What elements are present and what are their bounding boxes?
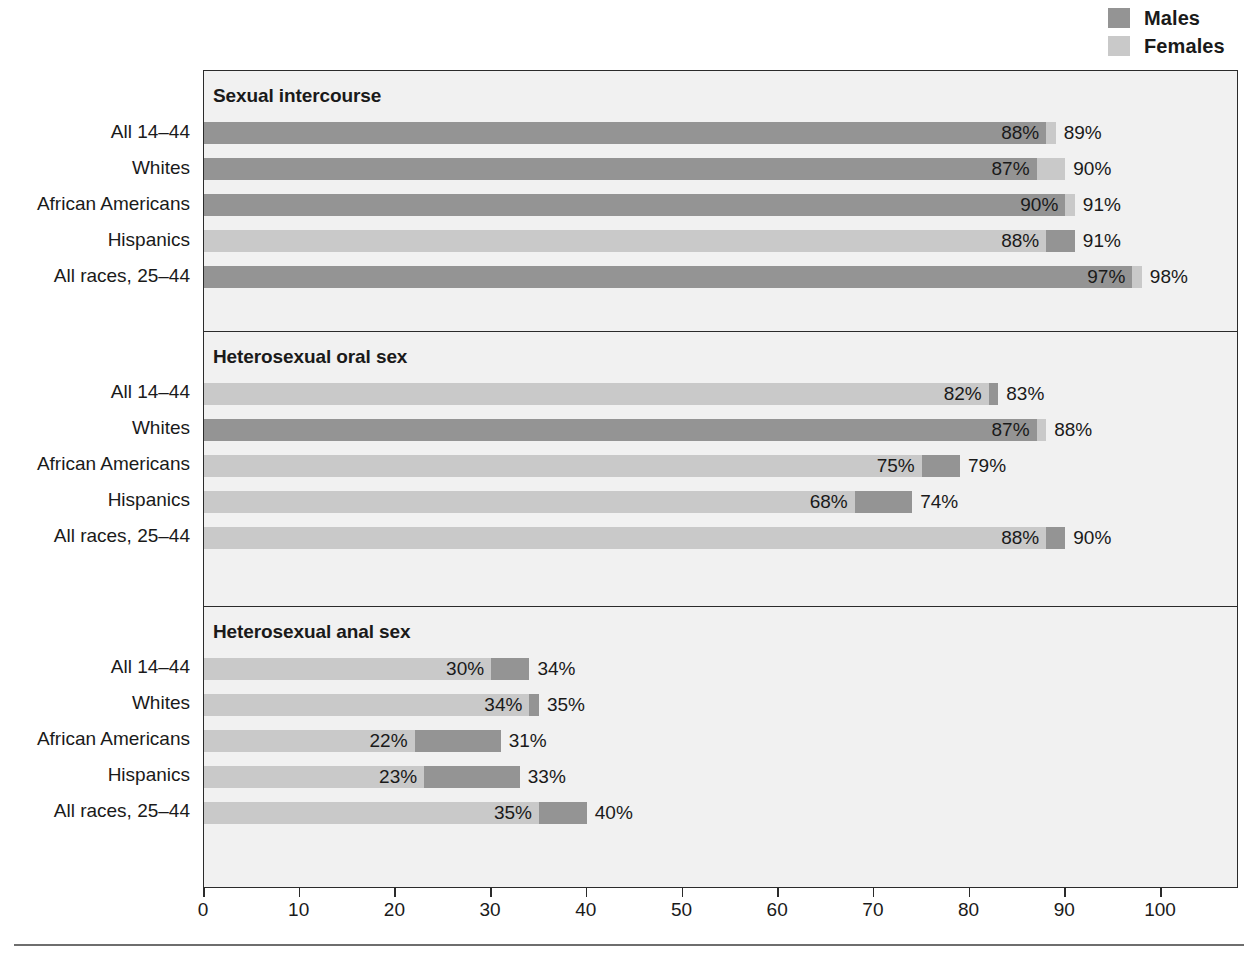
panel-title: Heterosexual anal sex	[213, 621, 411, 643]
bar-value-males: 74%	[912, 491, 958, 513]
bar-value-males: 40%	[587, 802, 633, 824]
bar-row: 35%40%	[204, 802, 1237, 824]
row-label: All 14–44	[0, 121, 190, 143]
bar-females	[204, 383, 989, 405]
bar-males	[204, 194, 1065, 216]
panel-3: Heterosexual anal sex30%34%34%35%22%31%2…	[204, 606, 1237, 889]
row-label: Hispanics	[0, 764, 190, 786]
axis-tick	[777, 888, 779, 897]
bar-row: 23%33%	[204, 766, 1237, 788]
row-label: Hispanics	[0, 489, 190, 511]
row-label: All 14–44	[0, 656, 190, 678]
row-label: All races, 25–44	[0, 525, 190, 547]
bar-value-females: 75%	[877, 455, 922, 477]
row-label: African Americans	[0, 453, 190, 475]
bar-females	[204, 230, 1046, 252]
axis-tick-label: 70	[843, 899, 903, 921]
axis-tick-label: 80	[939, 899, 999, 921]
row-label: African Americans	[0, 193, 190, 215]
bar-value-females: 22%	[370, 730, 415, 752]
axis-tick	[682, 888, 684, 897]
bar-value-males: 87%	[992, 158, 1037, 180]
bar-value-females: 91%	[1075, 194, 1121, 216]
bar-value-males: 90%	[1020, 194, 1065, 216]
bar-males	[204, 122, 1046, 144]
bar-value-females: 35%	[494, 802, 539, 824]
bar-row: 87%88%	[204, 419, 1237, 441]
bar-value-females: 68%	[810, 491, 855, 513]
row-label: All 14–44	[0, 381, 190, 403]
chart-legend: MalesFemales	[1108, 4, 1258, 60]
bar-value-females: 34%	[484, 694, 529, 716]
bar-row: 75%79%	[204, 455, 1237, 477]
bar-value-males: 88%	[1001, 122, 1046, 144]
panel-1: Sexual intercourse88%89%87%90%90%91%88%9…	[204, 71, 1237, 331]
bar-males	[204, 266, 1132, 288]
bar-value-males: 91%	[1075, 230, 1121, 252]
axis-tick	[299, 888, 301, 897]
axis-tick	[394, 888, 396, 897]
axis-tick-label: 30	[460, 899, 520, 921]
bar-value-males: 79%	[960, 455, 1006, 477]
axis-tick-label: 60	[747, 899, 807, 921]
bar-row: 88%90%	[204, 527, 1237, 549]
axis-tick	[873, 888, 875, 897]
bar-row: 90%91%	[204, 194, 1237, 216]
bar-females	[204, 802, 539, 824]
bar-value-females: 88%	[1001, 230, 1046, 252]
bar-row: 82%83%	[204, 383, 1237, 405]
bar-value-males: 34%	[529, 658, 575, 680]
axis-tick-label: 100	[1130, 899, 1190, 921]
row-label: Whites	[0, 417, 190, 439]
bottom-rule	[14, 944, 1244, 946]
bar-value-females: 82%	[944, 383, 989, 405]
bar-row: 88%91%	[204, 230, 1237, 252]
legend-label: Males	[1144, 8, 1200, 28]
axis-tick-label: 90	[1034, 899, 1094, 921]
bar-row: 22%31%	[204, 730, 1237, 752]
bar-row: 30%34%	[204, 658, 1237, 680]
bar-value-males: 90%	[1065, 527, 1111, 549]
axis-tick-label: 20	[364, 899, 424, 921]
row-label: Whites	[0, 692, 190, 714]
bar-value-males: 83%	[998, 383, 1044, 405]
axis-tick	[203, 888, 205, 897]
bar-value-females: 30%	[446, 658, 491, 680]
row-label: Whites	[0, 157, 190, 179]
axis-tick	[1064, 888, 1066, 897]
axis-tick	[1160, 888, 1162, 897]
bar-females	[204, 491, 855, 513]
bar-females	[204, 527, 1046, 549]
bar-value-females: 90%	[1065, 158, 1111, 180]
bar-value-males: 87%	[992, 419, 1037, 441]
bar-value-females: 98%	[1142, 266, 1188, 288]
row-label: Hispanics	[0, 229, 190, 251]
legend-item-males: Males	[1108, 4, 1258, 32]
bar-males	[204, 158, 1037, 180]
bar-row: 68%74%	[204, 491, 1237, 513]
bar-value-females: 88%	[1001, 527, 1046, 549]
panel-title: Sexual intercourse	[213, 85, 381, 107]
bar-value-males: 33%	[520, 766, 566, 788]
row-label: All races, 25–44	[0, 800, 190, 822]
bar-females	[204, 455, 922, 477]
legend-label: Females	[1144, 36, 1225, 56]
bar-value-females: 23%	[379, 766, 424, 788]
plot-area: Sexual intercourse88%89%87%90%90%91%88%9…	[203, 70, 1238, 888]
legend-swatch-males-icon	[1108, 8, 1130, 28]
panel-title: Heterosexual oral sex	[213, 346, 407, 368]
axis-tick-label: 40	[556, 899, 616, 921]
axis-tick	[969, 888, 971, 897]
chart-figure: MalesFemales Sexual intercourse88%89%87%…	[0, 0, 1258, 960]
bar-value-males: 31%	[501, 730, 547, 752]
row-label: African Americans	[0, 728, 190, 750]
bar-value-females: 88%	[1046, 419, 1092, 441]
bar-row: 34%35%	[204, 694, 1237, 716]
bar-row: 97%98%	[204, 266, 1237, 288]
row-label: All races, 25–44	[0, 265, 190, 287]
bar-row: 87%90%	[204, 158, 1237, 180]
bar-females	[204, 694, 529, 716]
axis-tick	[586, 888, 588, 897]
bar-males	[204, 419, 1037, 441]
legend-swatch-females-icon	[1108, 36, 1130, 56]
